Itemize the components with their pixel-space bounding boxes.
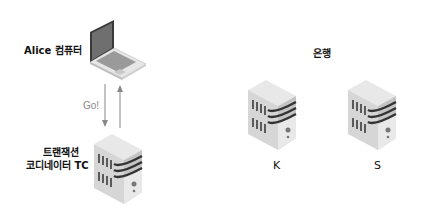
bank-server-s-label: S (374, 159, 381, 172)
client-label: Alice 컴퓨터 (24, 44, 82, 57)
coordinator-server-icon (90, 130, 146, 208)
bank-server-s-icon (344, 76, 400, 154)
bank-group-title: 은행 (313, 47, 331, 60)
request-arrow (100, 82, 130, 130)
coordinator-label: 트랜잭션 코디네이터 TC (33, 146, 89, 172)
go-message-label: Go! (83, 100, 99, 111)
bank-server-k-icon (244, 76, 300, 154)
coordinator-label-line2: 코디네이터 TC (26, 159, 89, 172)
coordinator-label-line1: 트랜잭션 (33, 146, 89, 159)
bank-server-k-label: K (273, 159, 280, 172)
laptop-icon (84, 18, 150, 84)
